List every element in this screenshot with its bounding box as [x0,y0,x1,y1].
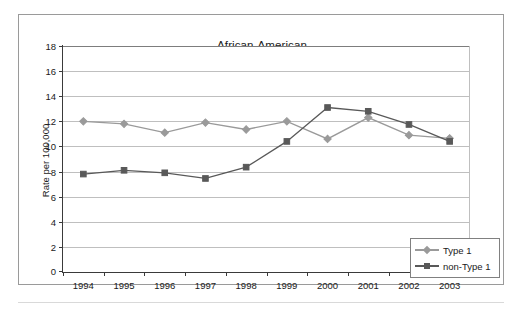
data-point-marker [81,171,87,177]
data-point-marker [365,108,371,114]
y-tick-label: 0 [51,266,56,277]
square-marker-icon [415,260,439,272]
legend: Type 1non-Type 1 [410,238,500,278]
diamond-marker-icon [415,244,439,256]
plot-area: 024681012141618 199419951996199719981999… [63,46,470,272]
data-point-marker [202,119,209,126]
x-tick-label: 1997 [195,280,216,291]
y-tick-label: 18 [45,41,56,52]
y-tick-label: 2 [51,241,56,252]
data-point-marker [121,168,127,174]
data-point-marker [242,126,249,133]
series-line [83,118,449,139]
y-tick-label: 4 [51,216,56,227]
data-point-marker [80,118,87,125]
data-point-marker [161,129,168,136]
legend-item: Type 1 [415,242,495,258]
data-point-marker [243,164,249,170]
legend-label: Type 1 [443,245,472,256]
chart-page: African-American Rate per 100,000 024681… [0,0,524,316]
data-point-marker [284,139,290,145]
y-axis-title: Rate per 100,000 [40,91,51,231]
data-point-marker [447,139,453,145]
x-tick-label: 1999 [276,280,297,291]
data-point-marker [324,135,331,142]
data-point-marker [365,114,372,121]
bottom-divider [18,302,504,303]
legend-label: non-Type 1 [443,261,491,272]
data-point-marker [283,118,290,125]
y-tick-label: 10 [45,141,56,152]
x-tick-label: 2003 [439,280,460,291]
y-tick-label: 12 [45,116,56,127]
data-point-marker [162,170,168,176]
series-line [83,108,449,179]
x-tick-label: 2002 [398,280,419,291]
legend-item: non-Type 1 [415,258,495,274]
data-point-marker [120,120,127,127]
data-point-marker [405,131,412,138]
y-tick-label: 14 [45,91,56,102]
figure-frame: African-American Rate per 100,000 024681… [18,14,504,285]
x-tick-label: 1996 [154,280,175,291]
x-tick-label: 1995 [113,280,134,291]
data-point-marker [406,122,412,128]
series-layer [63,46,470,272]
y-tick-label: 8 [51,166,56,177]
x-tick-label: 1994 [73,280,94,291]
y-tick-label: 6 [51,191,56,202]
y-tick-label: 16 [45,66,56,77]
data-point-marker [203,176,209,182]
data-point-marker [325,105,331,111]
x-tick-label: 2000 [317,280,338,291]
x-tick-label: 2001 [358,280,379,291]
x-tick-label: 1998 [236,280,257,291]
